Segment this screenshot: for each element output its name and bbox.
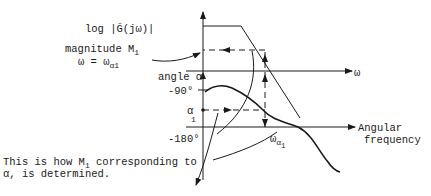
omega-alpha1-label: ωα1 bbox=[270, 133, 285, 150]
down-arrowhead bbox=[262, 119, 268, 127]
alpha1-label: α1 bbox=[187, 105, 196, 124]
omega-equation: ω = ωα1 bbox=[78, 56, 119, 70]
caption-pointer-curve bbox=[213, 132, 277, 160]
diagram-canvas: log |Ḡ(jω)| magnitude M1 ω = ωα1 ω angle… bbox=[0, 0, 431, 196]
angular-label-line1: Angular bbox=[358, 122, 402, 134]
alpha1-arrowhead bbox=[224, 107, 232, 113]
omega-axis-label: ω bbox=[354, 67, 361, 79]
tick-label-minus180: -180° bbox=[168, 133, 200, 145]
caption-line2: α, is determined. bbox=[3, 168, 110, 180]
up-arrowhead-1 bbox=[262, 74, 268, 82]
m1-arrowhead bbox=[222, 47, 230, 53]
connecting-arc bbox=[217, 51, 254, 134]
magnitude-curve bbox=[203, 26, 300, 118]
alpha1-point bbox=[201, 108, 205, 112]
caption-down-arrow bbox=[196, 113, 218, 185]
phase-curve bbox=[205, 86, 340, 172]
tick-label-minus90: -90° bbox=[168, 85, 193, 97]
magnitude-pointer-arrow bbox=[152, 53, 200, 61]
magnitude-axis-label: log |Ḡ(jω)| bbox=[85, 23, 154, 35]
up-arrowhead-2 bbox=[262, 54, 268, 62]
magnitude-label: magnitude M1 bbox=[65, 43, 139, 57]
angular-label-line2: frequency bbox=[364, 134, 421, 146]
angle-label: angle α bbox=[158, 71, 202, 83]
